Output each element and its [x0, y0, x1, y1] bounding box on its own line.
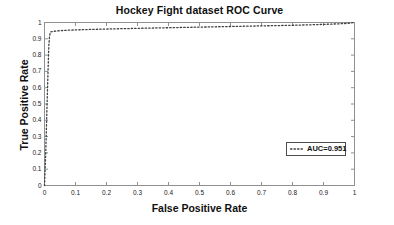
axes-frame — [45, 23, 355, 186]
y-tick-label: 0 — [22, 182, 42, 189]
legend: AUC=0.951 — [286, 142, 346, 156]
chart-figure: Hockey Fight dataset ROC Curve 00.10.20.… — [0, 0, 394, 225]
legend-label: AUC=0.951 — [307, 145, 346, 153]
x-tick-label: 0.8 — [281, 189, 305, 196]
x-tick-label: 0.9 — [312, 189, 336, 196]
x-tick-label: 0.6 — [219, 189, 243, 196]
x-tick-label: 0.4 — [157, 189, 181, 196]
x-tick-label: 0.3 — [126, 189, 150, 196]
y-tick-label: 1 — [22, 19, 42, 26]
y-axis-label: True Positive Rate — [18, 35, 30, 175]
x-tick-label: 0 — [33, 189, 57, 196]
x-tick-label: 0.7 — [250, 189, 274, 196]
x-tick-label: 1 — [343, 189, 367, 196]
x-tick-label: 0.2 — [95, 189, 119, 196]
legend-line-swatch — [290, 145, 304, 153]
x-axis-label: False Positive Rate — [44, 202, 355, 214]
x-tick-label: 0.5 — [188, 189, 212, 196]
x-tick-label: 0.1 — [64, 189, 88, 196]
